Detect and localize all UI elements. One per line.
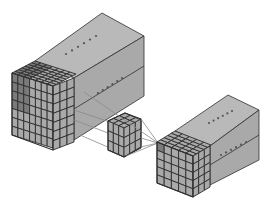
input-cube-side-grid — [53, 78, 74, 150]
ellipsis-dot — [89, 39, 91, 41]
ellipsis-dot — [213, 120, 215, 122]
ellipsis-dot — [220, 154, 222, 156]
ellipsis-dot — [230, 149, 232, 151]
ellipsis-dot — [231, 110, 233, 112]
ellipsis-dot — [102, 89, 104, 91]
ellipsis-dot — [217, 117, 219, 119]
grid-cell — [35, 134, 41, 145]
connector-arrow — [80, 135, 110, 148]
grid-cell — [41, 135, 47, 146]
conv3d-diagram — [0, 0, 269, 210]
ellipsis-dot — [116, 80, 118, 82]
ellipsis-dot — [225, 151, 227, 153]
ellipsis-dot — [208, 122, 210, 124]
output-volume — [157, 95, 259, 197]
connector-arrow — [141, 119, 158, 143]
ellipsis-dot — [107, 86, 109, 88]
grid-cell — [24, 130, 30, 141]
grid-cell — [30, 132, 36, 143]
grid-cell — [47, 137, 53, 148]
ellipsis-dot — [240, 144, 242, 146]
ellipsis-dot — [111, 83, 113, 85]
ellipsis-dot — [97, 92, 99, 94]
ellipsis-dot — [77, 46, 79, 48]
ellipsis-dot — [65, 53, 67, 55]
ellipsis-dot — [95, 35, 97, 37]
diagram-canvas — [0, 0, 269, 210]
ellipsis-dot — [83, 42, 85, 44]
ellipsis-dot — [235, 146, 237, 148]
ellipsis-dot — [226, 112, 228, 114]
ellipsis-dot — [121, 77, 123, 79]
ellipsis-dot — [245, 141, 247, 143]
ellipsis-dot — [71, 49, 73, 51]
ellipsis-dot — [222, 115, 224, 117]
